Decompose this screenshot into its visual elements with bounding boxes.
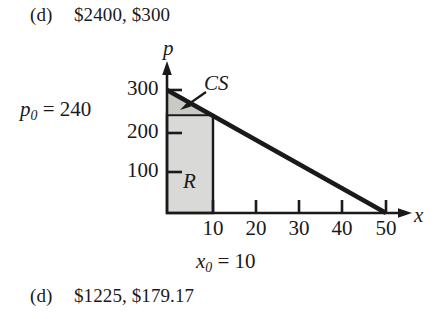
answer-line-top: (d) $2400, $300 xyxy=(30,4,170,26)
answer-value-bottom: $1225, $179.17 xyxy=(74,285,194,307)
x-tick-label-30: 30 xyxy=(282,218,316,239)
answer-tag-bottom: (d) xyxy=(30,285,74,307)
x-axis-label: x xyxy=(414,205,423,226)
x0-value: 10 xyxy=(235,249,256,273)
y-tick-label-300: 300 xyxy=(127,78,159,99)
y-axis-label: p xyxy=(163,38,174,59)
p0-equals: = xyxy=(43,97,55,121)
x0-symbol: x xyxy=(196,249,205,273)
x-axis-arrowhead xyxy=(398,208,412,218)
x0-annotation: x0 = 10 xyxy=(196,251,256,272)
x-tick-label-50: 50 xyxy=(369,218,403,239)
p0-symbol: p xyxy=(20,97,31,121)
revenue-label: R xyxy=(183,171,196,192)
x-tick-label-10: 10 xyxy=(196,218,230,239)
p0-subscript: 0 xyxy=(31,108,38,123)
p0-value: 240 xyxy=(60,97,92,121)
x-tick-label-20: 20 xyxy=(239,218,273,239)
plot-canvas xyxy=(0,30,434,285)
answer-line-bottom: (d) $1225, $179.17 xyxy=(30,285,194,307)
y-tick-label-100: 100 xyxy=(127,160,159,181)
p0-annotation: p0 = 240 xyxy=(20,99,91,120)
answer-value-top: $2400, $300 xyxy=(74,4,170,26)
consumer-surplus-label: CS xyxy=(204,73,229,94)
figure-page: (d) $2400, $300 xyxy=(0,0,434,319)
x0-subscript: 0 xyxy=(205,260,212,275)
x-tick-label-40: 40 xyxy=(325,218,359,239)
y-tick-label-200: 200 xyxy=(127,121,159,142)
supply-demand-figure: p x CS R p0 = 240 x0 = 10 300 200 100 10… xyxy=(0,30,434,285)
revenue-region-fill xyxy=(167,115,213,213)
y-axis-arrowhead xyxy=(162,61,172,75)
x0-equals: = xyxy=(218,249,230,273)
answer-tag-top: (d) xyxy=(30,4,74,26)
